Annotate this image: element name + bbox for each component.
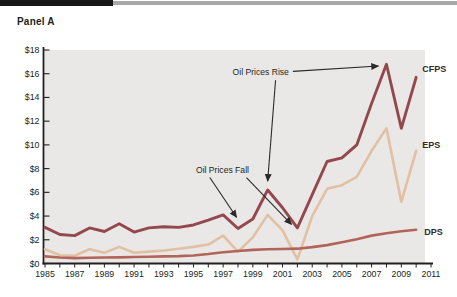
y-axis-label: $6: [30, 187, 40, 197]
top-accent-bar: [0, 0, 457, 7]
y-axis-label: $8: [30, 164, 40, 174]
x-axis-label: 1987: [65, 269, 85, 279]
top-bar-gray-segment: [113, 1, 457, 5]
y-axis-label: $10: [25, 140, 40, 150]
x-axis-label: 2001: [273, 269, 293, 279]
x-axis-label: 2005: [332, 269, 352, 279]
x-axis-label: 1995: [184, 269, 204, 279]
series-label-cfps: CFPS: [422, 64, 446, 74]
y-axis-label: $4: [30, 211, 40, 221]
y-axis-label: $12: [25, 116, 40, 126]
x-axis-label: 2009: [392, 269, 412, 279]
annotation-text: Oil Prices Fall: [196, 165, 249, 175]
y-axis-label: $14: [25, 92, 40, 102]
chart-svg: $0$2$4$6$8$10$12$14$16$18198519871989199…: [0, 30, 457, 297]
x-axis-label: 1991: [124, 269, 144, 279]
x-axis-label: 2003: [302, 269, 322, 279]
x-axis-label: 2011: [422, 269, 441, 279]
series-label-dps: DPS: [424, 227, 443, 237]
x-axis-label: 1989: [95, 269, 115, 279]
x-axis-label: 1999: [243, 269, 263, 279]
x-axis-label: 2007: [362, 269, 382, 279]
y-axis-label: $2: [30, 235, 40, 245]
top-bar-black-segment: [0, 0, 113, 6]
y-axis-label: $18: [25, 45, 40, 55]
annotation-text: Oil Prices Rise: [233, 67, 290, 77]
series-label-eps: EPS: [422, 140, 440, 150]
y-axis-label: $0: [30, 259, 40, 269]
x-axis-label: 1997: [213, 269, 233, 279]
x-axis-label: 1985: [35, 269, 55, 279]
y-axis-label: $16: [25, 69, 40, 79]
panel-title: Panel A: [17, 16, 55, 27]
x-axis-label: 1993: [154, 269, 174, 279]
